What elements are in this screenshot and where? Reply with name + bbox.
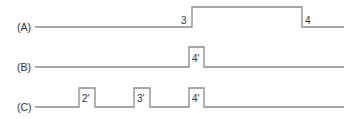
signal-a: (A) 3 4 (17, 7, 344, 33)
signal-b-pulse-label: 4' (192, 53, 200, 64)
signal-b: (B) 4' (17, 47, 344, 73)
signal-c-pulse-2-label: 3' (137, 93, 145, 104)
signal-c-label: (C) (17, 101, 32, 113)
signal-b-waveform (35, 47, 344, 67)
signal-a-fall-label: 4 (305, 15, 311, 26)
timing-diagram: (A) 3 4 (B) 4' (C) 2' 3' 4' (0, 0, 364, 119)
signal-b-label: (B) (17, 61, 31, 73)
signal-a-label: (A) (17, 21, 31, 33)
signal-c-pulse-3-label: 4' (192, 93, 200, 104)
signal-a-waveform (35, 7, 344, 27)
signal-c: (C) 2' 3' 4' (17, 88, 344, 113)
signal-c-pulse-1-label: 2' (82, 93, 90, 104)
signal-a-rise-label: 3 (181, 15, 187, 26)
